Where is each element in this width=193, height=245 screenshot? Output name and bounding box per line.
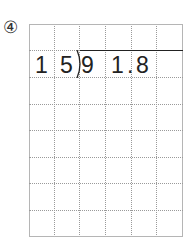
problem-number-label: ④ xyxy=(3,19,18,36)
grid-line xyxy=(29,157,183,158)
dividend-digit: 1 xyxy=(111,54,124,77)
decimal-point: . xyxy=(127,54,133,77)
grid-line xyxy=(29,210,183,211)
grid-line xyxy=(29,236,183,237)
divisor-digit: 1 xyxy=(35,54,48,77)
divisor-digit: 5 xyxy=(60,54,73,77)
grid-line xyxy=(29,104,183,105)
grid-line xyxy=(29,130,183,131)
grid-line xyxy=(29,183,183,184)
grid-line xyxy=(29,77,183,78)
division-overline xyxy=(80,50,183,51)
dividend-digit: 8 xyxy=(136,54,149,77)
answer-grid xyxy=(29,24,183,237)
grid-line xyxy=(29,24,183,25)
dividend-digit: 9 xyxy=(81,54,94,77)
